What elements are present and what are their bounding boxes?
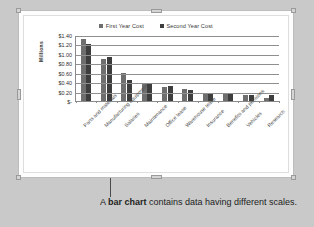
chart-plot-frame[interactable]: First Year CostSecond Year Cost Millions… [23, 15, 289, 173]
category-label: Vehicles [245, 110, 263, 128]
chart-plot-wrapper: Millions $1.40$1.20$1.00$0.80$0.60$0.40$… [24, 36, 288, 110]
chart-object[interactable]: First Year CostSecond Year Cost Millions… [18, 10, 294, 178]
y-axis-tick-label: $1.20 [59, 42, 73, 48]
caption-text: A bar chart contains data having differe… [100, 196, 300, 208]
gridline [76, 64, 279, 65]
caption-before: A [100, 197, 108, 207]
x-axis-tick [259, 101, 260, 103]
y-axis-tick-label: $1.00 [59, 52, 73, 58]
gridline [76, 45, 279, 46]
caption-emphasis: bar chart [108, 197, 147, 207]
legend-swatch-icon [160, 24, 164, 28]
category-label: Insurance [205, 108, 225, 128]
x-axis-tick [96, 101, 97, 103]
legend-item-0: First Year Cost [99, 23, 144, 29]
y-axis-tick-label: $1.40 [59, 33, 73, 39]
gridline [76, 83, 279, 84]
caption-after: contains data having different scales. [147, 197, 297, 207]
x-axis-tick [218, 101, 219, 103]
x-axis-tick [198, 101, 199, 103]
gridline [76, 74, 279, 75]
screenshot-stage: First Year CostSecond Year Cost Millions… [0, 0, 314, 227]
y-axis-ticks: $1.40$1.20$1.00$0.80$0.60$0.40$0.20$- [44, 36, 74, 102]
x-axis-tick [157, 101, 158, 103]
bar[interactable] [269, 95, 274, 101]
chart-legend: First Year CostSecond Year Cost [24, 23, 288, 29]
x-axis-tick [279, 101, 280, 103]
legend-label: Second Year Cost [166, 23, 212, 29]
resize-handle-top-middle[interactable] [151, 9, 162, 13]
category-label: Research [266, 108, 286, 128]
resize-handle-bottom-left[interactable] [16, 175, 21, 180]
bar[interactable] [228, 93, 233, 101]
bar[interactable] [223, 94, 228, 101]
bar[interactable] [188, 90, 193, 101]
resize-handle-top-right[interactable] [291, 8, 296, 13]
category-label: Salaries [123, 111, 141, 129]
y-axis-tick-label: $0.40 [59, 80, 73, 86]
gridline [76, 55, 279, 56]
resize-handle-top-left[interactable] [16, 8, 21, 13]
x-axis-tick [238, 101, 239, 103]
y-axis-tick-label: $0.80 [59, 61, 73, 67]
y-axis-tick-label: $0.60 [59, 71, 73, 77]
bar[interactable] [162, 87, 167, 101]
y-axis-tick-label: $0.20 [59, 90, 73, 96]
resize-handle-left-middle[interactable] [17, 89, 21, 100]
x-axis-tick [117, 101, 118, 103]
x-axis-tick [137, 101, 138, 103]
legend-swatch-icon [99, 24, 103, 28]
legend-label: First Year Cost [106, 23, 144, 29]
resize-handle-bottom-right[interactable] [291, 175, 296, 180]
y-axis-tick-label: $- [67, 99, 72, 105]
x-axis-tick [76, 101, 77, 103]
gridline [76, 36, 279, 37]
x-axis-category-labels: Parts and materialsManufacturing equipme… [75, 124, 279, 194]
gridline [76, 93, 279, 94]
bar[interactable] [264, 98, 269, 101]
callout-leader-line [110, 178, 111, 197]
bar[interactable] [121, 73, 126, 101]
resize-handle-right-middle[interactable] [291, 89, 295, 100]
bar[interactable] [182, 89, 187, 101]
x-axis-tick [178, 101, 179, 103]
plot-area [75, 36, 279, 102]
legend-item-1: Second Year Cost [160, 23, 213, 29]
